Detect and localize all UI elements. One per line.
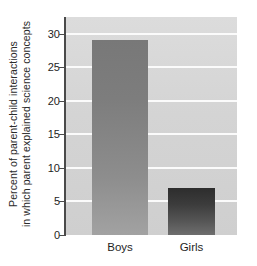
y-axis-tick-label: 5 <box>34 195 60 207</box>
bar-girls <box>168 188 215 235</box>
y-axis-tick-label: 20 <box>34 95 60 107</box>
y-axis-tick-label: 25 <box>34 61 60 73</box>
y-axis-tick-label: 30 <box>34 28 60 40</box>
bar-boys <box>92 40 148 235</box>
y-axis-tick-mark <box>59 67 65 68</box>
x-axis-tick-label-boys: Boys <box>107 241 133 253</box>
y-axis-tick-mark <box>59 168 65 169</box>
y-axis-tick-label: 10 <box>34 162 60 174</box>
y-axis-tick-mark <box>59 201 65 202</box>
y-axis-tick-mark <box>59 134 65 135</box>
gridline <box>66 33 237 35</box>
y-axis-title-line-2: in which parent explained science concep… <box>20 21 33 227</box>
x-axis-tick-label-girls: Girls <box>180 241 204 253</box>
y-axis-tick-label: 0 <box>34 229 60 241</box>
y-axis-tick-labels: 051015202530 <box>34 17 60 235</box>
y-axis-title-line-1: Percent of parent-child interactions <box>7 41 20 207</box>
bar-chart-figure: Percent of parent-child interactions in … <box>0 0 257 266</box>
plot-area <box>66 17 237 235</box>
y-axis-tick-mark <box>59 235 65 236</box>
y-axis-tick-mark <box>59 101 65 102</box>
y-axis-tick-label: 15 <box>34 128 60 140</box>
y-axis-tick-mark <box>59 34 65 35</box>
